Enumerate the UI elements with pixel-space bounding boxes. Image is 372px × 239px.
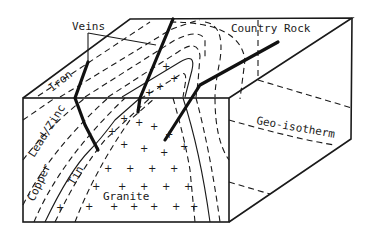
svg-text:+: + xyxy=(108,126,116,137)
svg-text:+: + xyxy=(145,87,153,98)
svg-text:+: + xyxy=(85,201,93,212)
svg-text:+: + xyxy=(120,113,128,124)
label-lead-zinc: Lead/Zinc xyxy=(26,102,69,159)
block-diagram: + + + + + + + + + + + + + + + + + + + + … xyxy=(0,0,372,239)
svg-text:+: + xyxy=(170,73,178,84)
svg-text:+: + xyxy=(162,61,170,72)
svg-text:+: + xyxy=(104,163,112,174)
svg-text:+: + xyxy=(190,201,198,212)
svg-text:+: + xyxy=(92,181,100,192)
svg-text:+: + xyxy=(180,141,188,152)
isotherm-right-face xyxy=(229,182,270,194)
svg-text:+: + xyxy=(165,129,173,140)
svg-text:+: + xyxy=(184,181,192,192)
svg-text:+: + xyxy=(160,147,168,158)
svg-text:+: + xyxy=(150,201,158,212)
label-veins: Veins xyxy=(72,20,105,33)
label-copper: Copper xyxy=(25,161,54,203)
svg-text:+: + xyxy=(126,163,134,174)
svg-text:+: + xyxy=(162,181,170,192)
svg-text:+: + xyxy=(135,117,143,128)
svg-text:+: + xyxy=(56,202,64,213)
svg-text:+: + xyxy=(140,143,148,154)
label-granite: Granite xyxy=(103,190,149,203)
svg-text:+: + xyxy=(148,163,156,174)
label-geo-isotherm: Geo-isotherm xyxy=(255,114,336,141)
label-country-rock: Country Rock xyxy=(231,22,311,35)
label-tin: Tin xyxy=(65,164,86,188)
svg-text:+: + xyxy=(156,81,164,92)
svg-text:+: + xyxy=(172,201,180,212)
svg-text:+: + xyxy=(170,163,178,174)
svg-text:+: + xyxy=(150,121,158,132)
svg-text:+: + xyxy=(120,139,128,150)
